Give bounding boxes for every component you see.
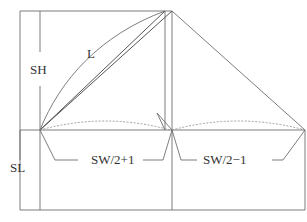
label-sl: SL xyxy=(10,160,25,175)
construction-line-a xyxy=(157,113,165,130)
front-dashed-arc xyxy=(40,121,170,130)
label-l: L xyxy=(87,46,95,61)
back-dashed-arc xyxy=(172,121,305,130)
front-bias-line-1 xyxy=(40,11,165,130)
back-width-bracket-left xyxy=(172,130,197,160)
back-width-bracket-right xyxy=(272,130,305,160)
label-front-width: SW/2+1 xyxy=(91,152,134,167)
front-bias-line-2 xyxy=(40,11,172,130)
front-width-bracket-left xyxy=(40,130,78,160)
label-back-width: SW/2−1 xyxy=(203,152,246,167)
front-width-bracket-right xyxy=(143,130,172,160)
back-bias-line xyxy=(172,11,305,130)
sleeve-draft-diagram: SH L SL SW/2+1 SW/2−1 xyxy=(0,0,307,222)
label-sh: SH xyxy=(30,62,47,77)
